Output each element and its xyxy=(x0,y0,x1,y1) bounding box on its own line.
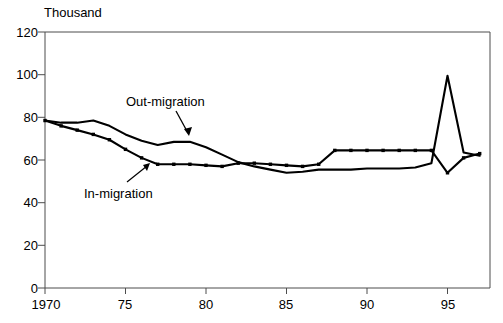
data-point-marker xyxy=(317,163,320,166)
data-point-marker xyxy=(76,128,79,131)
data-point-marker xyxy=(333,149,336,152)
annotation-arrow-in-migration xyxy=(127,163,150,182)
data-point-marker xyxy=(478,152,481,155)
data-point-marker xyxy=(349,149,352,152)
annotation-arrow-out-migration xyxy=(176,111,192,136)
migration-line-chart: Thousand 120 100 80 60 40 20 0 1970 75 8… xyxy=(0,0,503,323)
data-point-marker xyxy=(156,163,159,166)
data-point-marker xyxy=(172,163,175,166)
data-point-marker xyxy=(188,163,191,166)
data-point-marker xyxy=(446,171,449,174)
data-point-marker xyxy=(59,124,62,127)
data-point-marker xyxy=(204,164,207,167)
data-point-marker xyxy=(414,149,417,152)
data-point-marker xyxy=(285,164,288,167)
data-point-marker xyxy=(269,163,272,166)
data-point-marker xyxy=(108,138,111,141)
data-point-marker xyxy=(43,119,46,122)
series-line-out-migration xyxy=(45,76,480,173)
data-point-marker xyxy=(253,162,256,165)
data-point-marker xyxy=(92,133,95,136)
data-point-marker xyxy=(398,149,401,152)
data-point-marker xyxy=(462,156,465,159)
data-point-marker xyxy=(301,165,304,168)
plot-frame xyxy=(45,32,490,288)
y-axis-ticks xyxy=(38,32,45,288)
data-point-marker xyxy=(365,149,368,152)
data-point-marker xyxy=(124,148,127,151)
data-point-marker xyxy=(381,149,384,152)
plot-area xyxy=(0,0,503,323)
data-series-layer xyxy=(43,76,481,175)
data-point-marker xyxy=(220,165,223,168)
data-point-marker xyxy=(140,156,143,159)
data-point-marker xyxy=(237,162,240,165)
x-axis-ticks xyxy=(45,288,448,294)
series-line-in-migration xyxy=(45,121,480,173)
data-point-marker xyxy=(430,149,433,152)
